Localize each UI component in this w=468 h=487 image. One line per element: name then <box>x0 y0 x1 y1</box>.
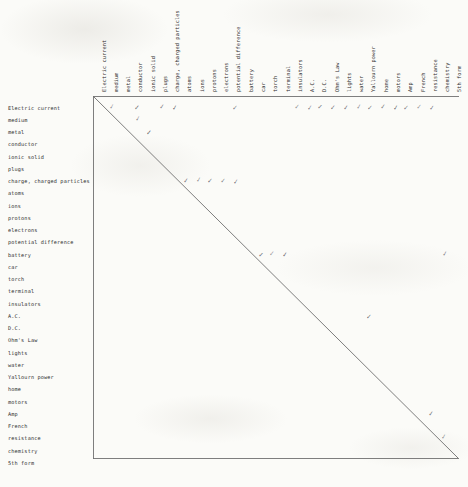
checkmark: ✓ <box>184 178 189 185</box>
column-header-14: torch <box>273 76 278 92</box>
column-header-13: car <box>261 82 266 92</box>
row-label-4: ionic solid <box>8 155 44 160</box>
checkmark: ✓ <box>429 105 434 112</box>
column-header-12: battery <box>249 69 254 92</box>
row-label-15: terminal <box>8 289 34 294</box>
column-header-19: Ohm's Law <box>335 63 340 92</box>
row-label-25: Amp <box>8 412 18 417</box>
column-header-22: Yallourn power <box>371 46 376 92</box>
checkmark: ✓ <box>232 104 238 111</box>
row-label-3: conductor <box>8 142 37 147</box>
column-header-23: home <box>384 79 389 92</box>
column-header-29: 5th form <box>457 66 462 92</box>
row-label-27: resistance <box>8 436 41 441</box>
row-label-0: Electric current <box>8 106 60 111</box>
checkmark: ✓ <box>134 105 139 112</box>
column-header-10: electrons <box>224 63 229 92</box>
row-label-16: insulators <box>8 302 41 307</box>
checkmark: ✓ <box>172 105 178 112</box>
checkmark: ✓ <box>196 177 202 184</box>
row-label-29: 5th form <box>8 461 34 466</box>
row-label-10: electrons <box>8 228 37 233</box>
column-header-6: charge, charged particles <box>175 10 180 92</box>
column-header-28: chemistry <box>445 63 450 92</box>
column-header-0: Electric current <box>102 40 107 92</box>
column-header-16: insulators <box>298 59 303 92</box>
checkmark: ✓ <box>380 104 385 111</box>
row-label-8: ions <box>8 204 21 209</box>
column-header-5: plugs <box>163 76 168 92</box>
checkmark: ✓ <box>367 105 373 112</box>
checkmark: ✓ <box>146 130 151 137</box>
row-label-14: torch <box>8 277 24 282</box>
column-header-18: D.C. <box>322 79 327 92</box>
checkmark: ✓ <box>258 251 264 259</box>
checkmark: ✓ <box>233 179 238 186</box>
row-label-11: potential difference <box>8 240 73 245</box>
row-label-9: protons <box>8 216 31 221</box>
row-label-28: chemistry <box>8 449 37 454</box>
row-label-6: charge, charged particles <box>8 179 90 184</box>
row-label-5: plugs <box>8 167 24 172</box>
checkmark: ✓ <box>393 105 399 112</box>
row-label-22: Yallourn power <box>8 375 54 380</box>
column-header-9: protons <box>212 69 217 92</box>
row-label-7: atoms <box>8 191 24 196</box>
row-label-13: car <box>8 265 18 270</box>
row-label-12: battery <box>8 253 31 258</box>
checkmark: ✓ <box>282 252 287 259</box>
checkmark: ✓ <box>109 103 115 111</box>
column-header-20: lights <box>347 72 352 92</box>
checkmark: ✓ <box>269 250 274 257</box>
checkmark: ✓ <box>416 104 421 111</box>
checkmark: ✓ <box>442 251 448 259</box>
column-header-2: metal <box>126 76 131 92</box>
checkmark: ✓ <box>442 434 448 441</box>
checkmark: ✓ <box>356 103 362 111</box>
row-label-23: home <box>8 387 21 392</box>
diagonal-line <box>94 97 458 458</box>
column-header-11: potential difference <box>236 27 241 92</box>
column-header-27: resistance <box>433 59 438 92</box>
column-header-4: ionic solid <box>151 56 156 92</box>
column-header-1: medium <box>114 72 119 92</box>
row-label-1: medium <box>8 118 28 123</box>
row-label-20: lights <box>8 351 28 356</box>
column-header-24: motors <box>396 72 401 92</box>
column-header-15: terminal <box>286 66 291 92</box>
checkmark: ✓ <box>220 178 225 185</box>
checkmark: ✓ <box>160 104 165 111</box>
column-header-21: water <box>359 76 364 92</box>
column-header-8: ions <box>200 79 205 92</box>
concept-matrix: Electric currentmediummetalconductorioni… <box>0 0 468 487</box>
checkmark: ✓ <box>344 104 349 111</box>
checkmark: ✓ <box>307 105 312 112</box>
column-header-26: French <box>421 72 426 92</box>
row-label-24: motors <box>8 400 28 405</box>
row-label-26: French <box>8 424 28 429</box>
row-label-17: A.C. <box>8 314 21 319</box>
checkmark: ✓ <box>331 105 336 112</box>
column-header-17: A.C. <box>310 79 315 92</box>
checkmark: ✓ <box>429 411 434 418</box>
row-label-18: D.C. <box>8 326 21 331</box>
checkmark: ✓ <box>294 104 299 111</box>
row-label-19: Ohm's Law <box>8 338 37 343</box>
row-label-21: water <box>8 363 24 368</box>
row-label-2: metal <box>8 130 24 135</box>
column-header-7: atoms <box>187 76 192 92</box>
checkmark: ✓ <box>207 178 213 185</box>
column-header-3: conductor <box>138 63 143 92</box>
column-header-25: Amp <box>408 82 413 92</box>
